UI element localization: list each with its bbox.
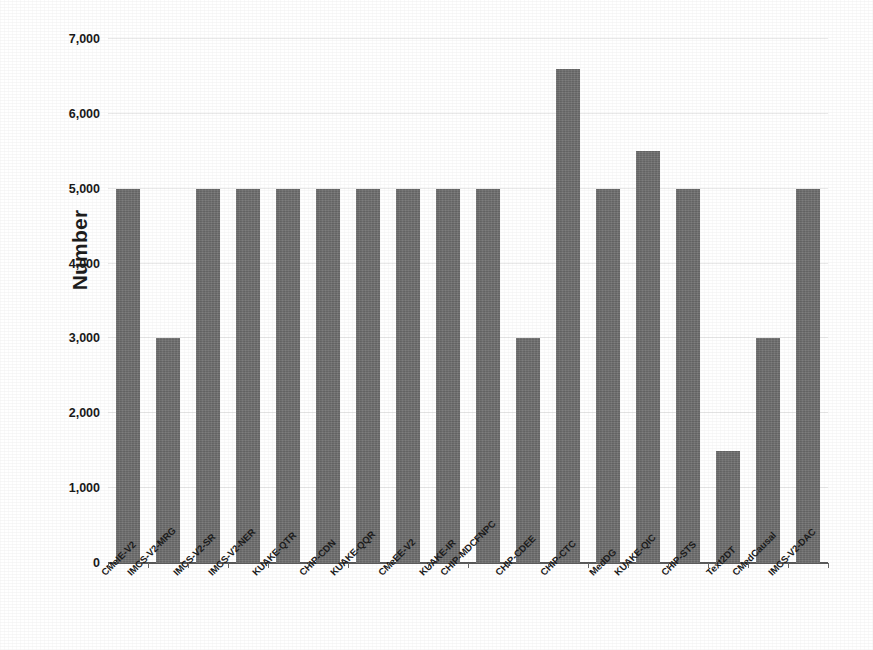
x-tick-mark xyxy=(308,563,309,568)
x-tick-label: KUAKE-QIC xyxy=(612,532,658,578)
x-tick-label: CHIP-STS xyxy=(659,539,698,578)
x-tick-mark xyxy=(708,563,709,568)
bar-chart-figure: Number 01,0002,0003,0004,0005,0006,0007,… xyxy=(0,0,873,650)
x-tick-mark xyxy=(508,563,509,568)
x-tick-mark xyxy=(548,563,549,568)
x-tick-mark xyxy=(348,563,349,568)
x-tick-mark xyxy=(108,563,109,568)
x-tick-mark xyxy=(228,563,229,568)
x-tick-label: CHIP-CDEE xyxy=(493,533,538,578)
x-axis-tick-labels: CMeIE-V2IMCS-V2-MRGIMCS-V2-SRIMCS-V2-NER… xyxy=(0,0,873,650)
x-tick-label: MedDG xyxy=(587,546,618,577)
x-tick-mark xyxy=(388,563,389,568)
x-tick-mark xyxy=(428,563,429,568)
x-tick-label: KUAKE-QQR xyxy=(328,528,377,577)
x-tick-mark xyxy=(588,563,589,568)
x-tick-mark xyxy=(468,563,469,568)
x-tick-mark xyxy=(748,563,749,568)
x-tick-mark xyxy=(628,563,629,568)
x-tick-mark xyxy=(788,563,789,568)
x-tick-mark xyxy=(828,563,829,568)
x-tick-mark xyxy=(268,563,269,568)
x-tick-label: KUAKE-QTR xyxy=(250,530,298,578)
x-tick-mark xyxy=(148,563,149,568)
x-tick-label: CHIP-CTC xyxy=(538,538,578,578)
x-tick-mark xyxy=(668,563,669,568)
x-tick-mark xyxy=(188,563,189,568)
x-tick-label: CMeEE-V2 xyxy=(376,536,417,577)
